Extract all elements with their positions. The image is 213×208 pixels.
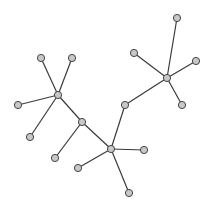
edge-layer bbox=[18, 18, 196, 193]
edge-A-C bbox=[41, 58, 58, 95]
node-M bbox=[163, 74, 170, 81]
edge-H-J bbox=[111, 149, 144, 150]
node-D bbox=[14, 101, 21, 108]
edge-M-N bbox=[134, 53, 167, 78]
node-Q bbox=[178, 101, 185, 108]
node-B bbox=[68, 54, 75, 61]
edge-B-C bbox=[58, 58, 72, 95]
edge-M-P bbox=[167, 61, 196, 78]
node-G bbox=[51, 154, 58, 161]
node-K bbox=[125, 189, 132, 196]
node-O bbox=[173, 14, 180, 21]
node-F bbox=[78, 118, 85, 125]
edge-H-K bbox=[111, 149, 129, 193]
node-P bbox=[192, 57, 199, 64]
edge-F-G bbox=[55, 122, 82, 158]
node-N bbox=[130, 49, 137, 56]
node-H bbox=[107, 145, 114, 152]
edge-F-H bbox=[82, 122, 111, 149]
edge-M-O bbox=[167, 18, 177, 78]
node-E bbox=[26, 133, 33, 140]
network-graph bbox=[0, 0, 213, 208]
edge-H-I bbox=[78, 149, 111, 168]
node-layer bbox=[14, 14, 199, 196]
edge-M-Q bbox=[167, 78, 182, 105]
node-I bbox=[74, 164, 81, 171]
node-J bbox=[140, 146, 147, 153]
edge-L-M bbox=[125, 78, 167, 105]
edge-C-F bbox=[58, 95, 82, 122]
node-C bbox=[54, 91, 61, 98]
node-L bbox=[121, 101, 128, 108]
node-A bbox=[37, 54, 44, 61]
edge-H-L bbox=[111, 105, 125, 149]
